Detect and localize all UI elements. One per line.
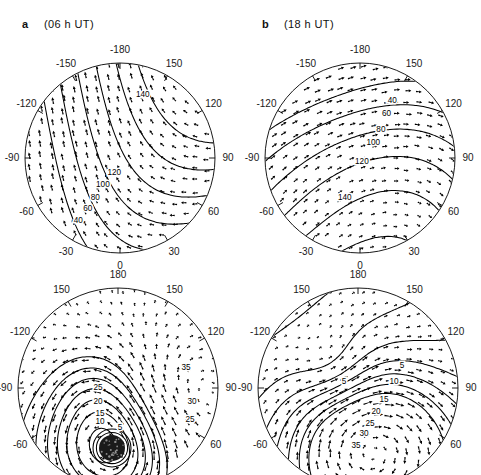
lon-label-150: 150 bbox=[53, 285, 70, 295]
lon-ticks bbox=[258, 288, 458, 438]
contour-labels: 353530302525252520201515101055 bbox=[93, 363, 197, 432]
lon-label-60: 60 bbox=[208, 207, 219, 217]
contours bbox=[20, 357, 168, 475]
lon-label-neg120: -120 bbox=[256, 99, 276, 109]
lon-label-neg180: -180 bbox=[350, 45, 370, 55]
lon-label-150: 150 bbox=[166, 285, 183, 295]
lon-label-neg60: -60 bbox=[19, 207, 33, 217]
lon-label-90: 90 bbox=[225, 383, 236, 393]
lon-label-120: 120 bbox=[445, 99, 462, 109]
lon-label-neg30: -30 bbox=[299, 247, 313, 257]
svg-text:80: 80 bbox=[91, 193, 101, 202]
svg-text:35: 35 bbox=[181, 363, 191, 372]
lon-label-neg150: -150 bbox=[56, 59, 76, 69]
lon-label-120: 120 bbox=[205, 99, 222, 109]
contour-labels: 404060608080100100120120140140 bbox=[338, 96, 397, 202]
svg-text:100: 100 bbox=[96, 180, 110, 189]
lon-label-150: 150 bbox=[406, 285, 423, 295]
lon-label-30: 30 bbox=[408, 247, 419, 257]
contours bbox=[265, 81, 455, 253]
svg-text:10: 10 bbox=[389, 377, 399, 386]
svg-text:60: 60 bbox=[83, 204, 93, 213]
lon-label-neg60: -60 bbox=[13, 440, 27, 450]
lon-label-neg60: -60 bbox=[259, 207, 273, 217]
lon-label-120: 120 bbox=[448, 327, 465, 337]
svg-text:120: 120 bbox=[107, 168, 121, 177]
svg-text:5: 5 bbox=[118, 423, 123, 432]
lon-label-90: 90 bbox=[222, 153, 233, 163]
svg-text:60: 60 bbox=[382, 109, 392, 118]
svg-text:25: 25 bbox=[185, 415, 195, 424]
svg-text:120: 120 bbox=[355, 157, 369, 166]
lon-label-180: 180 bbox=[110, 270, 127, 280]
svg-text:20: 20 bbox=[371, 407, 381, 416]
svg-text:15: 15 bbox=[379, 395, 389, 404]
plot-b: 404060608080100100120120140140 bbox=[240, 0, 481, 270]
panel-d: 5510101515202025253030353555 180150-120-… bbox=[240, 270, 481, 475]
svg-text:30: 30 bbox=[187, 397, 197, 406]
lon-label-60: 60 bbox=[450, 440, 461, 450]
lon-label-60: 60 bbox=[210, 440, 221, 450]
contour-labels: 140140120120100100808060604040 bbox=[74, 90, 150, 224]
lon-label-neg120: -120 bbox=[10, 327, 30, 337]
lon-label-neg180: -180 bbox=[110, 45, 130, 55]
lon-label-neg90: -90 bbox=[5, 153, 19, 163]
lon-label-neg120: -120 bbox=[250, 327, 270, 337]
svg-text:25: 25 bbox=[93, 383, 103, 392]
plot-a: 140140120120100100808060604040 bbox=[0, 0, 240, 270]
lon-label-neg60: -60 bbox=[253, 440, 267, 450]
svg-text:10: 10 bbox=[95, 417, 105, 426]
svg-text:20: 20 bbox=[93, 397, 103, 406]
svg-text:100: 100 bbox=[366, 138, 380, 147]
lon-label-150: 150 bbox=[406, 59, 423, 69]
lon-label-180: 180 bbox=[350, 270, 367, 280]
svg-text:40: 40 bbox=[74, 216, 84, 225]
panel-b: b (18 h UT) 4040606080801001001201201401… bbox=[240, 0, 481, 270]
svg-text:40: 40 bbox=[388, 96, 398, 105]
lon-label-90: 90 bbox=[465, 383, 476, 393]
panel-c: 353530302525252520201515101055 180150-12… bbox=[0, 270, 240, 475]
svg-text:140: 140 bbox=[338, 193, 352, 202]
lon-label-30: 30 bbox=[168, 247, 179, 257]
svg-text:5: 5 bbox=[400, 361, 405, 370]
lon-label-150: 150 bbox=[166, 59, 183, 69]
plot-c: 353530302525252520201515101055 bbox=[0, 270, 240, 475]
lon-label-150: 150 bbox=[293, 285, 310, 295]
svg-text:5: 5 bbox=[342, 377, 347, 386]
svg-text:140: 140 bbox=[136, 90, 150, 99]
lon-label-neg120: -120 bbox=[16, 99, 36, 109]
panel-a: a (06 h UT) 1401401201201001008080606040… bbox=[0, 0, 240, 270]
svg-text:80: 80 bbox=[376, 125, 386, 134]
lon-label-120: 120 bbox=[208, 327, 225, 337]
svg-text:30: 30 bbox=[359, 429, 369, 438]
lon-label-neg90: -90 bbox=[238, 383, 252, 393]
lon-label-90: 90 bbox=[462, 153, 473, 163]
lon-label-neg90: -90 bbox=[245, 153, 259, 163]
plot-d: 5510101515202025253030353555 bbox=[240, 270, 481, 475]
lon-label-neg150: -150 bbox=[296, 59, 316, 69]
lon-label-neg30: -30 bbox=[59, 247, 73, 257]
svg-text:25: 25 bbox=[365, 419, 375, 428]
lon-label-neg90: -90 bbox=[0, 383, 12, 393]
lon-label-60: 60 bbox=[448, 207, 459, 217]
svg-text:35: 35 bbox=[351, 441, 361, 450]
